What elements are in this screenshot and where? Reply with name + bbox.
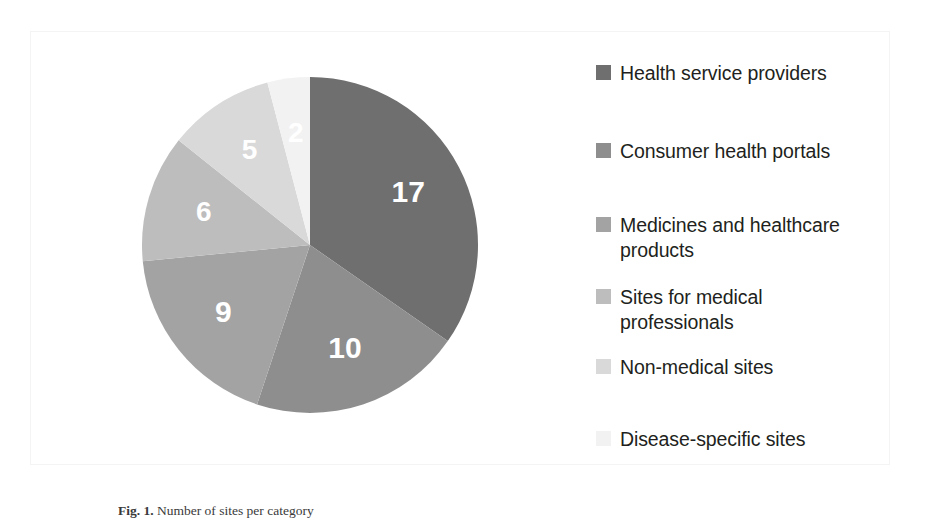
pie-slice-value: 6 (196, 196, 212, 227)
legend-item-label: Consumer health portals (620, 139, 830, 164)
legend-swatch-icon (596, 359, 611, 374)
pie-slices (142, 77, 478, 413)
pie-slice-value: 10 (328, 331, 361, 364)
legend-item[interactable]: Consumer health portals (596, 139, 892, 164)
legend-item-label: Non-medical sites (620, 355, 773, 380)
legend-item[interactable]: Non-medical sites (596, 355, 892, 380)
legend-item-label: Disease-specific sites (620, 427, 805, 452)
pie-slice-value: 9 (215, 295, 232, 328)
legend-swatch-icon (596, 217, 611, 232)
legend-item-label: Medicines and healthcare products (620, 213, 840, 263)
legend-swatch-icon (596, 431, 611, 446)
legend-swatch-icon (596, 65, 611, 80)
legend-item-label: Sites for medical professionals (620, 285, 762, 335)
caption-label: Fig. 1. (118, 503, 154, 518)
legend-item[interactable]: Sites for medical professionals (596, 285, 892, 335)
legend-item[interactable]: Health service providers (596, 61, 892, 86)
legend-swatch-icon (596, 289, 611, 304)
pie-slice-value: 5 (242, 134, 258, 165)
caption-text: Number of sites per category (157, 503, 314, 518)
figure-caption: Fig. 1. Number of sites per category (118, 503, 818, 519)
legend-swatch-icon (596, 143, 611, 158)
pie-chart: 17109652 (40, 40, 580, 455)
chart-legend: Health service providersConsumer health … (596, 55, 896, 455)
legend-item[interactable]: Disease-specific sites (596, 427, 892, 452)
pie-slice-value: 17 (392, 175, 425, 208)
pie-slice-value: 2 (288, 117, 304, 148)
pie-chart-svg: 17109652 (40, 40, 580, 455)
legend-item-label: Health service providers (620, 61, 827, 86)
legend-item[interactable]: Medicines and healthcare products (596, 213, 892, 263)
